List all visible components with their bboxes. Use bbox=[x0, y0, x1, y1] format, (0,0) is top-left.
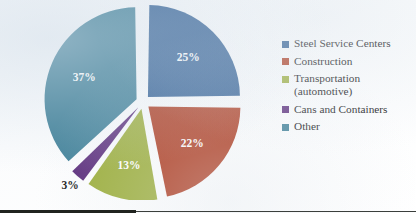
pie-slice[interactable] bbox=[148, 106, 240, 196]
legend-item-construction[interactable]: Construction bbox=[282, 55, 414, 68]
legend-swatch-icon bbox=[282, 58, 289, 65]
slice-label-other: 37% bbox=[73, 71, 96, 83]
legend-item-label: Construction bbox=[294, 55, 352, 68]
legend-item-transportation[interactable]: Transportation (automotive) bbox=[282, 72, 414, 98]
legend-item-label: Steel Service Centers bbox=[294, 37, 391, 50]
bottom-rule-right-segment bbox=[136, 211, 416, 213]
legend-swatch-icon bbox=[282, 106, 289, 113]
bottom-rule-left-segment bbox=[0, 210, 136, 213]
slice-label-transportation: 13% bbox=[118, 159, 141, 171]
chart-legend: Steel Service Centers Construction Trans… bbox=[282, 37, 414, 138]
pie-slices-group bbox=[45, 5, 241, 200]
chart-page: 25% 22% 13% 3% 37% Steel Service Centers… bbox=[0, 0, 416, 213]
legend-item-cans-and-containers[interactable]: Cans and Containers bbox=[282, 103, 414, 116]
legend-item-other[interactable]: Other bbox=[282, 120, 414, 133]
legend-swatch-icon bbox=[282, 124, 289, 131]
pie-chart-svg: 25% 22% 13% 3% 37% bbox=[0, 0, 268, 200]
slice-label-cans-and-containers: 3% bbox=[62, 179, 79, 191]
page-bottom-rule bbox=[0, 210, 416, 213]
legend-item-label: Cans and Containers bbox=[294, 103, 388, 116]
legend-swatch-icon bbox=[282, 76, 289, 83]
slice-label-steel-service-centers: 25% bbox=[177, 51, 200, 63]
pie-chart-area: 25% 22% 13% 3% 37% bbox=[0, 0, 268, 200]
slice-label-construction: 22% bbox=[181, 137, 204, 149]
legend-swatch-icon bbox=[282, 41, 289, 48]
legend-item-label: Transportation (automotive) bbox=[294, 72, 360, 98]
legend-item-steel-service-centers[interactable]: Steel Service Centers bbox=[282, 37, 414, 50]
legend-item-label: Other bbox=[294, 120, 320, 133]
